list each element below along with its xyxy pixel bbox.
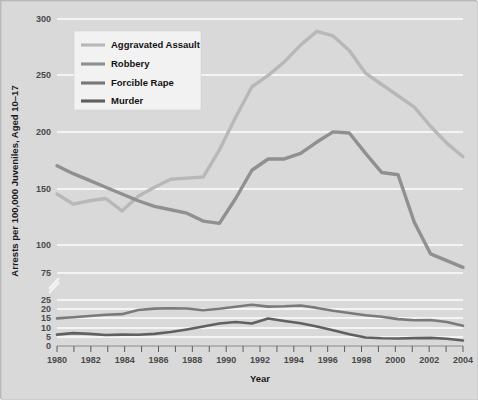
x-tick-label-1994: 1994 xyxy=(284,355,304,365)
ytick-label-100: 100 xyxy=(36,240,51,250)
ytick-label-150: 150 xyxy=(36,184,51,194)
x-tick-label-1984: 1984 xyxy=(115,355,135,365)
x-axis-title: Year xyxy=(250,373,270,384)
ytick-label-250: 250 xyxy=(36,70,51,80)
line-chart-svg: 300 250 200 150 100 75 25 20 15 10 5 0 xyxy=(1,1,478,400)
ytick-label-0: 0 xyxy=(46,341,51,351)
ytick-label-75: 75 xyxy=(41,268,51,278)
x-tick-label-2002: 2002 xyxy=(419,355,439,365)
x-tick-label-1990: 1990 xyxy=(216,355,236,365)
x-tick-label-1988: 1988 xyxy=(182,355,202,365)
x-tick-label-1982: 1982 xyxy=(81,355,101,365)
legend-label-murder: Murder xyxy=(111,95,144,106)
x-tick-label-1996: 1996 xyxy=(318,355,338,365)
ytick-label-300: 300 xyxy=(36,14,51,24)
legend-label-robbery: Robbery xyxy=(111,58,150,69)
x-tick-label-1980: 1980 xyxy=(47,355,67,365)
x-tick-label-1998: 1998 xyxy=(351,355,371,365)
chart-legend: Aggravated Assault Robbery Forcible Rape… xyxy=(74,31,201,110)
chart-plot-area: 300 250 200 150 100 75 25 20 15 10 5 0 xyxy=(1,1,478,400)
x-tick-label-1986: 1986 xyxy=(148,355,168,365)
x-tick-label-1992: 1992 xyxy=(250,355,270,365)
ytick-label-15: 15 xyxy=(41,313,51,323)
x-tick-label-2000: 2000 xyxy=(385,355,405,365)
ytick-label-200: 200 xyxy=(36,127,51,137)
legend-label-aggravated-assault: Aggravated Assault xyxy=(111,39,201,50)
x-tick-label-2004: 2004 xyxy=(453,355,473,365)
y-axis-title: Arrests per 100,000 Juveniles, Aged 10–1… xyxy=(9,85,20,276)
legend-label-forcible-rape: Forcible Rape xyxy=(111,77,174,88)
